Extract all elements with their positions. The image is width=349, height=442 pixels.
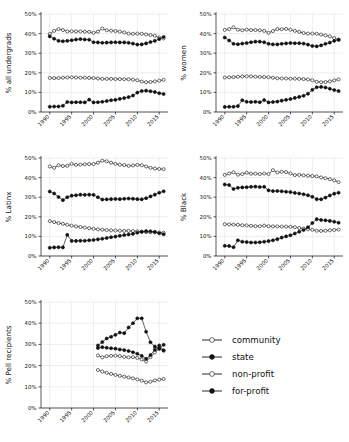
data-point-for-profit <box>101 346 104 349</box>
data-point-non-profit <box>114 373 117 376</box>
data-point-for-profit <box>285 98 288 101</box>
data-point-state <box>131 42 134 45</box>
data-point-non-profit <box>241 75 244 78</box>
data-point-state <box>276 43 279 46</box>
data-point-for-profit <box>140 230 143 233</box>
data-point-community <box>289 28 292 31</box>
data-point-non-profit <box>236 223 239 226</box>
data-point-community <box>298 173 301 176</box>
data-point-community <box>249 172 252 175</box>
data-point-state <box>66 196 69 199</box>
series-line-for-profit <box>50 91 164 107</box>
data-point-state <box>145 42 148 45</box>
data-point-for-profit <box>61 104 64 107</box>
data-point-state <box>48 190 51 193</box>
data-point-non-profit <box>88 227 91 230</box>
y-tick-label: 40% <box>200 31 212 37</box>
x-tick-label: 2005 <box>102 409 116 423</box>
data-point-community <box>53 166 56 169</box>
data-point-community <box>123 31 126 34</box>
data-point-state <box>136 43 139 46</box>
data-point-for-profit <box>48 105 51 108</box>
data-point-non-profit <box>123 229 126 232</box>
data-point-for-profit <box>70 239 73 242</box>
data-point-for-profit <box>131 232 134 235</box>
data-point-state <box>280 42 283 45</box>
y-tick-label: 30% <box>25 50 37 56</box>
data-point-non-profit <box>140 80 143 83</box>
x-tick-label: 2015 <box>146 113 160 127</box>
x-tick-label: 1995 <box>58 257 72 271</box>
x-tick-label: 2015 <box>146 257 160 271</box>
data-point-non-profit <box>48 76 51 79</box>
data-point-for-profit <box>249 100 252 103</box>
data-point-non-profit <box>118 229 121 232</box>
data-point-state <box>324 42 327 45</box>
data-point-community <box>88 30 91 33</box>
data-point-state <box>249 185 252 188</box>
x-tick-label: 2010 <box>299 257 313 271</box>
data-point-non-profit <box>131 377 134 380</box>
chart-legend: communitystatenon-profitfor-profit <box>196 330 346 402</box>
data-point-state <box>293 42 296 45</box>
data-point-community <box>153 34 156 37</box>
data-point-community <box>140 32 143 35</box>
data-point-for-profit <box>302 228 305 231</box>
data-point-for-profit <box>48 246 51 249</box>
data-point-state <box>276 189 279 192</box>
data-point-non-profit <box>263 224 266 227</box>
data-point-community <box>293 29 296 32</box>
data-point-state <box>328 194 331 197</box>
data-point-community <box>101 356 104 359</box>
data-point-for-profit <box>127 96 130 99</box>
data-point-for-profit <box>153 230 156 233</box>
data-point-non-profit <box>83 226 86 229</box>
data-point-state <box>53 37 56 40</box>
data-point-state <box>92 193 95 196</box>
data-point-for-profit <box>105 236 108 239</box>
data-point-for-profit <box>92 238 95 241</box>
data-point-community <box>105 29 108 32</box>
data-point-non-profit <box>110 229 113 232</box>
y-axis-label: % Pell recipients <box>4 325 13 384</box>
data-point-state <box>263 41 266 44</box>
data-point-state <box>245 186 248 189</box>
data-point-community <box>293 174 296 177</box>
data-point-non-profit <box>105 371 108 374</box>
data-point-for-profit <box>263 98 266 101</box>
data-point-state <box>158 347 161 350</box>
y-tick-label: 10% <box>25 89 37 95</box>
data-point-state <box>123 41 126 44</box>
data-point-non-profit <box>92 227 95 230</box>
data-point-community <box>285 171 288 174</box>
data-point-for-profit <box>88 239 91 242</box>
data-point-state <box>324 196 327 199</box>
data-point-non-profit <box>66 76 69 79</box>
x-tick-label: 1990 <box>212 113 226 127</box>
data-point-non-profit <box>258 75 261 78</box>
data-point-for-profit <box>149 90 152 93</box>
legend-label-non-profit: non-profit <box>232 369 275 379</box>
data-point-for-profit <box>101 237 104 240</box>
y-tick-label: 10% <box>25 384 37 390</box>
data-point-state <box>101 341 104 344</box>
x-tick-label: 2000 <box>80 257 94 271</box>
data-point-non-profit <box>254 75 257 78</box>
chart-panel-latinx: 0%10%20%30%40%50%19901995200020052010201… <box>0 148 174 288</box>
y-tick-label: 30% <box>200 194 212 200</box>
data-point-community <box>74 163 77 166</box>
data-point-state <box>83 38 86 41</box>
y-tick-label: 50% <box>25 155 37 161</box>
data-point-community <box>302 31 305 34</box>
data-point-community <box>105 355 108 358</box>
data-point-state <box>140 198 143 201</box>
data-point-for-profit <box>123 233 126 236</box>
data-point-for-profit <box>145 357 148 360</box>
data-point-for-profit <box>158 344 161 347</box>
data-point-state <box>70 194 73 197</box>
data-point-state <box>232 42 235 45</box>
data-point-non-profit <box>254 225 257 228</box>
data-point-non-profit <box>101 228 104 231</box>
data-point-state <box>254 185 257 188</box>
data-point-for-profit <box>153 348 156 351</box>
